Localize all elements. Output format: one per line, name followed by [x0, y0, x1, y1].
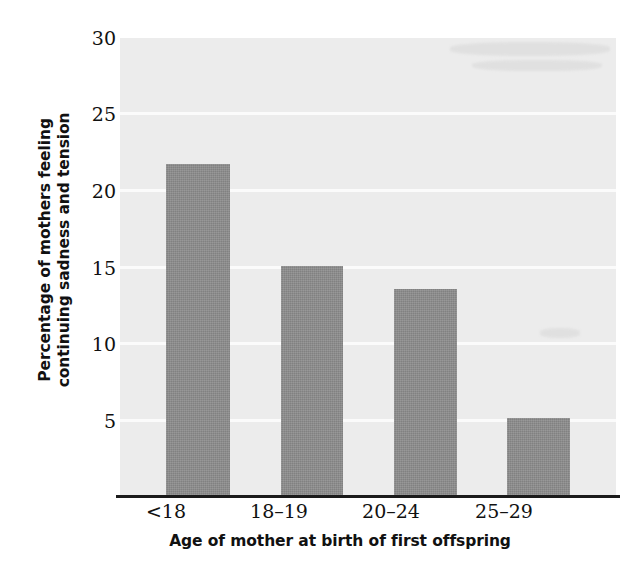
scan-smudge: [472, 60, 602, 71]
x-axis-line: [116, 495, 620, 498]
bar-20-24[interactable]: [394, 289, 457, 495]
y-tick-label-10: 10: [76, 335, 116, 354]
x-tick-label-25-29: 25–29: [464, 502, 544, 521]
bar-lt18[interactable]: [166, 164, 230, 495]
bar-25-29[interactable]: [507, 418, 570, 495]
bar-chart-figure: Percentage of mothers feeling continuing…: [0, 0, 644, 569]
x-axis-title: Age of mother at birth of first offsprin…: [80, 532, 600, 550]
x-tick-label-lt18: <18: [126, 502, 206, 521]
y-axis-title-line-1: Percentage of mothers feeling: [35, 113, 54, 388]
y-tick-label-15: 15: [76, 259, 116, 278]
y-tick-label-20: 20: [76, 182, 116, 201]
gridline-25: [120, 112, 616, 115]
x-tick-label-18-19: 18–19: [239, 502, 319, 521]
y-tick-label-5: 5: [76, 412, 116, 431]
scan-smudge: [450, 42, 610, 56]
y-tick-label-25: 25: [76, 105, 116, 124]
plot-area: [120, 38, 616, 495]
bar-18-19[interactable]: [281, 266, 343, 495]
scan-smudge: [540, 328, 580, 338]
x-tick-label-20-24: 20–24: [351, 502, 431, 521]
y-axis-title-line-2: continuing sadness and tension: [54, 113, 73, 388]
y-tick-label-30: 30: [76, 29, 116, 48]
